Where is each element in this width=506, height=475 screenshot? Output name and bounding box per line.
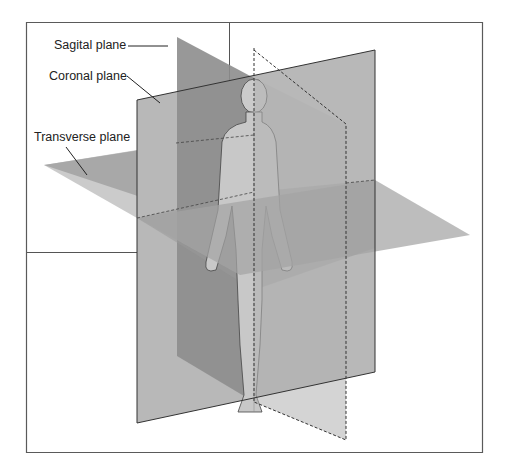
coronal-plane-label: Coronal plane <box>49 69 127 83</box>
transverse-plane-label: Transverse plane <box>34 130 130 144</box>
anatomical-planes-figure: Sagital plane Coronal plane Transverse p… <box>0 0 506 475</box>
sagital-plane-label: Sagital plane <box>54 38 126 52</box>
